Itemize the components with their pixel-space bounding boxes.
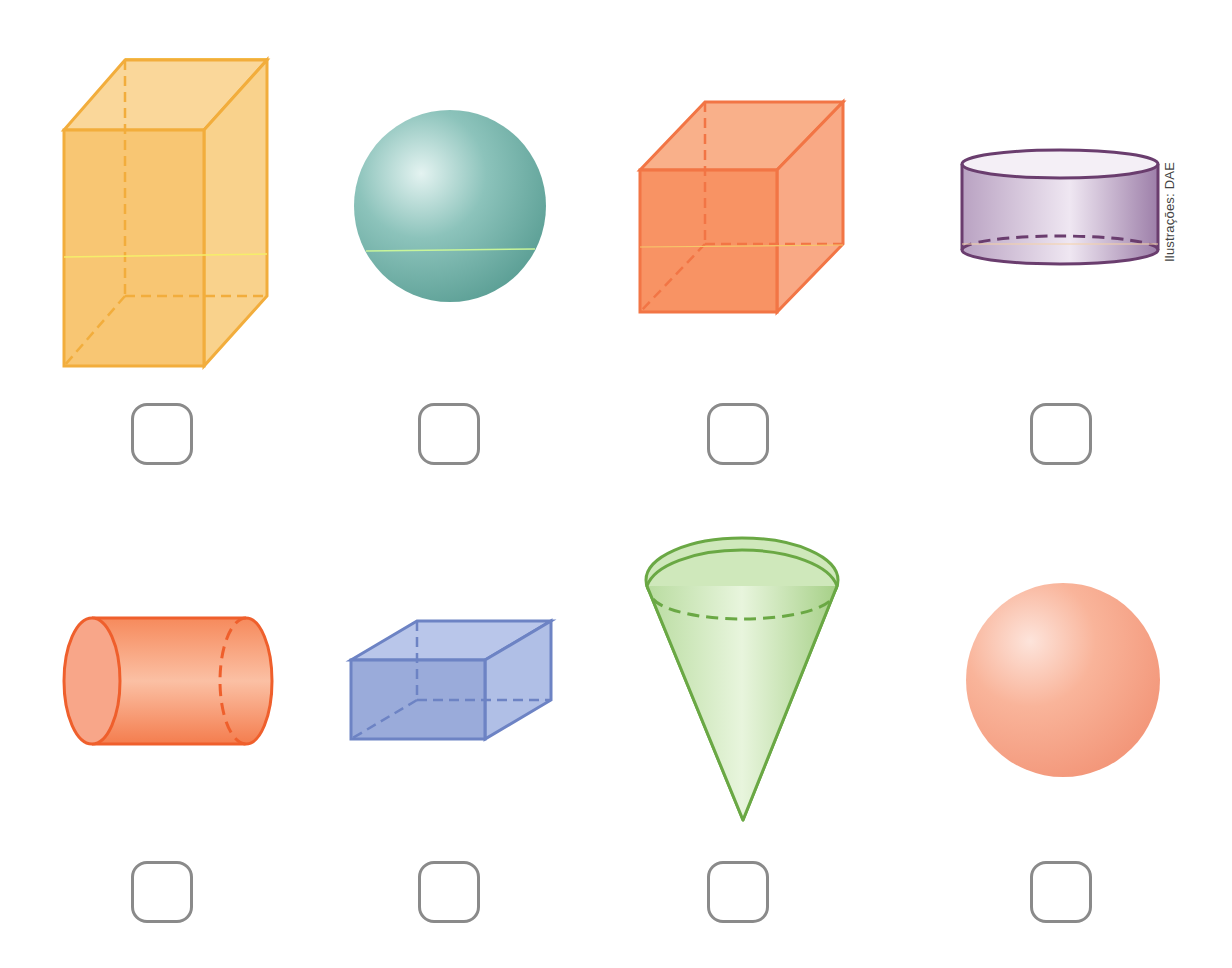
shapes-illustration — [0, 0, 1232, 968]
peach-sphere — [966, 583, 1160, 777]
short-cylinder — [962, 150, 1158, 264]
checkbox-peach-sphere[interactable] — [1030, 861, 1092, 923]
checkbox-short-cylinder[interactable] — [1030, 403, 1092, 465]
horizontal-cylinder — [64, 618, 272, 744]
tall-rectangular-prism — [64, 60, 267, 366]
checkbox-horizontal-cylinder[interactable] — [131, 861, 193, 923]
flat-rectangular-prism — [351, 621, 551, 739]
cube — [640, 102, 843, 312]
cone — [646, 538, 838, 820]
illustration-credit: Ilustrações: DAE — [1162, 162, 1177, 262]
checkbox-tall-rectangular-prism[interactable] — [131, 403, 193, 465]
teal-sphere — [354, 110, 546, 302]
checkbox-flat-rectangular-prism[interactable] — [418, 861, 480, 923]
checkbox-teal-sphere[interactable] — [418, 403, 480, 465]
checkbox-cone[interactable] — [707, 861, 769, 923]
checkbox-cube[interactable] — [707, 403, 769, 465]
